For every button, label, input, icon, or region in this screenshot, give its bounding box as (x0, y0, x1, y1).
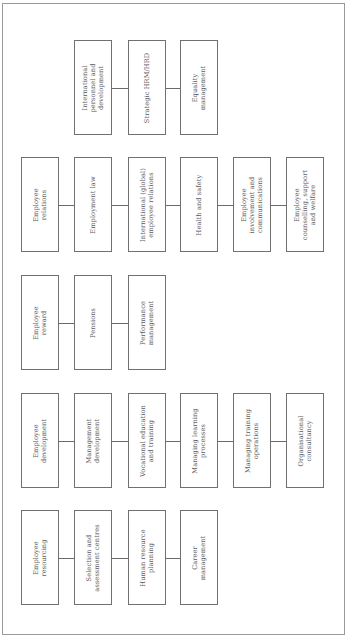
box-label: Health and safety (195, 159, 203, 251)
diagram-box: International (global) employee relation… (128, 157, 166, 252)
diagram-box: Human resource planning (128, 510, 166, 605)
diagram-box: Health and safety (180, 157, 218, 252)
diagram-box: Equality management (180, 40, 218, 135)
diagram-box: Vocational education and training (128, 393, 166, 488)
connector-line (112, 441, 128, 442)
diagram-box: Selection and assessment centres (74, 510, 112, 605)
connector-line (271, 441, 286, 442)
connector-line (112, 205, 128, 206)
box-label: Equality management (191, 42, 207, 134)
box-label: Performance management (139, 277, 155, 369)
diagram-box: Employment law (74, 157, 112, 252)
diagram-box: International personnel and development (74, 40, 112, 135)
diagram-box: Employee development (21, 393, 59, 488)
diagram-box: Employee counselling, support and welfar… (286, 157, 324, 252)
box-label: International personnel and development (81, 42, 105, 134)
box-label: Employee involvement and communications (240, 159, 264, 251)
connector-line (166, 558, 180, 559)
connector-line (112, 558, 128, 559)
diagram-box: Employee relations (21, 157, 59, 252)
diagram-box: Employee reward (21, 275, 59, 370)
connector-line (59, 441, 74, 442)
diagram-box: Performance management (128, 275, 166, 370)
connector-line (112, 323, 128, 324)
box-label: Employee relations (32, 159, 48, 251)
box-label: Selection and assessment centres (85, 512, 101, 604)
box-label: Employee reward (32, 277, 48, 369)
connector-line (218, 205, 233, 206)
box-label: Pensions (89, 277, 97, 369)
box-label: Employee resourcing (32, 512, 48, 604)
connector-line (59, 558, 74, 559)
box-label: Managing training operations (244, 395, 260, 487)
diagram-box: Employee resourcing (21, 510, 59, 605)
diagram-box: Strategic HRM/HRD (128, 40, 166, 135)
diagram-box: Organisational consultancy (286, 393, 324, 488)
box-label: Organisational consultancy (297, 395, 313, 487)
diagram-box: Pensions (74, 275, 112, 370)
diagram-box: Managing learning processes (180, 393, 218, 488)
connector-line (166, 441, 180, 442)
connector-line (59, 323, 74, 324)
connector-line (166, 205, 180, 206)
box-label: International (global) employee relation… (139, 159, 155, 251)
box-label: Career management (191, 512, 207, 604)
connector-line (112, 88, 128, 89)
connector-line (166, 88, 180, 89)
box-label: Vocational education and training (139, 395, 155, 487)
diagram-box: Management development (74, 393, 112, 488)
connector-line (271, 205, 286, 206)
connector-line (218, 441, 233, 442)
connector-line (59, 205, 74, 206)
diagram-box: Career management (180, 510, 218, 605)
box-label: Employee counselling, support and welfar… (293, 159, 317, 251)
box-label: Employee development (32, 395, 48, 487)
diagram-box: Managing training operations (233, 393, 271, 488)
box-label: Managing learning processes (191, 395, 207, 487)
box-label: Employment law (89, 159, 97, 251)
box-label: Management development (85, 395, 101, 487)
box-label: Strategic HRM/HRD (143, 42, 151, 134)
box-label: Human resource planning (139, 512, 155, 604)
diagram-box: Employee involvement and communications (233, 157, 271, 252)
